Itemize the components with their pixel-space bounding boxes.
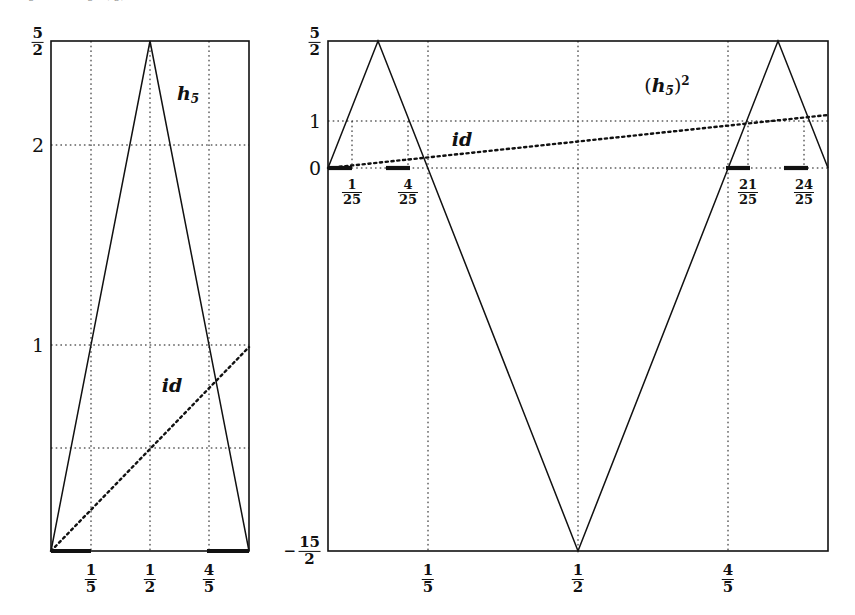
right-xtick-4-5: 4 5 <box>722 563 734 595</box>
left-ytick-2: 2 <box>32 134 44 156</box>
left-xtick-4-5: 4 5 <box>203 563 215 595</box>
figure-root: g g ( g) <box>0 0 855 615</box>
left-ytick-5-2: 5 2 <box>32 26 44 58</box>
minus-glyph: − <box>284 542 299 560</box>
right-id-label: id <box>452 128 473 150</box>
right-ytick-1: 1 <box>309 110 321 132</box>
left-xtick-1-2: 1 2 <box>144 563 156 595</box>
left-ytick-1: 1 <box>32 334 44 356</box>
right-zerotick-21-25: 21 25 <box>738 178 758 206</box>
right-zerotick-4-25: 4 25 <box>398 178 418 206</box>
left-panel-group <box>51 41 249 551</box>
right-ytick-minus-15-2: − 15 2 <box>284 535 321 567</box>
right-gridlines <box>328 41 828 551</box>
left-curve-label-h5: h5 <box>177 82 199 106</box>
right-panel-group <box>328 41 828 551</box>
right-zerotick-1-25: 1 25 <box>342 178 362 206</box>
plots-canvas <box>0 0 855 615</box>
left-id-label: id <box>162 374 183 396</box>
left-xtick-1-5: 1 5 <box>85 563 97 595</box>
right-xtick-1-5: 1 5 <box>422 563 434 595</box>
right-ytick-0: 0 <box>309 157 321 179</box>
close-paren: ) <box>674 74 681 96</box>
right-curve-label-h5-squared: (h5)2 <box>644 74 689 99</box>
right-zerotick-24-25: 24 25 <box>794 178 814 206</box>
right-xtick-1-2: 1 2 <box>572 563 584 595</box>
right-ytick-5-2: 5 2 <box>309 26 321 58</box>
left-gridlines <box>51 41 249 551</box>
